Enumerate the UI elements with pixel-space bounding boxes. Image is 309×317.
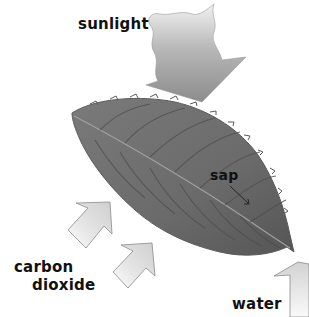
sunlight-label: sunlight [78,15,149,33]
carbon-dioxide-label-line1: carbon [14,258,73,276]
sunlight-arrow-icon [146,4,246,102]
leaf-illustration [72,94,294,255]
water-label: water [232,295,282,313]
carbon-dioxide-arrow-icon [113,243,155,288]
sap-label: sap [210,166,238,184]
carbon-dioxide-arrow-icon [68,202,112,248]
carbon-dioxide-label-line2: dioxide [32,276,95,294]
